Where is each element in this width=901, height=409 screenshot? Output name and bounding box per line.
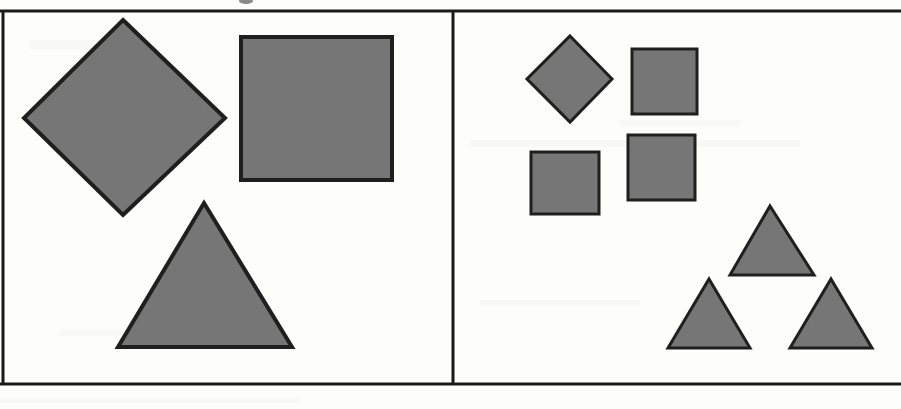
figure-root xyxy=(0,0,901,409)
small-square-bottom-left-shape xyxy=(531,152,599,214)
small-square-middle-shape xyxy=(628,135,695,200)
shapes-figure-canvas xyxy=(0,0,901,409)
large-square-shape xyxy=(241,37,392,180)
small-square-top-right-shape xyxy=(632,49,697,114)
